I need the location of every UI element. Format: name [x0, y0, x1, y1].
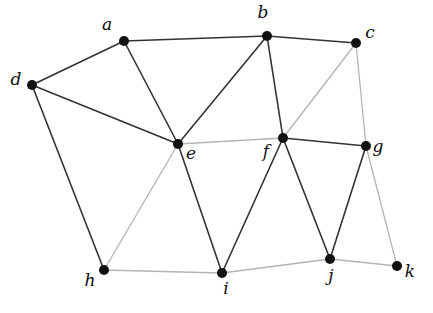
graph-edge-b-f — [267, 36, 283, 138]
graph-edge-f-g — [283, 138, 366, 146]
graph-diagram: abcdefghijk — [0, 0, 433, 313]
vertex-label-d: d — [11, 69, 22, 89]
graph-vertex-c — [351, 38, 361, 48]
graph-edge-f-j — [283, 138, 330, 259]
graph-vertex-b — [262, 31, 272, 41]
vertex-label-c: c — [365, 22, 375, 42]
graph-edge-a-b — [124, 36, 267, 41]
graph-edge-g-j — [330, 146, 366, 259]
graph-edge-d-e — [32, 85, 178, 144]
vertex-label-g: g — [373, 136, 384, 156]
graph-edge-a-d — [32, 41, 124, 85]
graph-edge-e-i — [178, 144, 222, 273]
graph-vertex-f — [278, 133, 288, 143]
graph-edge-h-i — [104, 270, 222, 273]
vertex-label-f: f — [261, 141, 272, 161]
vertex-layer — [27, 31, 402, 278]
graph-edge-c-f — [283, 43, 356, 138]
graph-vertex-j — [325, 254, 335, 264]
vertex-label-b: b — [258, 2, 269, 22]
graph-edge-e-h — [104, 144, 178, 270]
graph-edge-a-e — [124, 41, 178, 144]
graph-edge-g-k — [366, 146, 397, 266]
vertex-label-h: h — [85, 270, 96, 290]
edge-layer — [32, 36, 397, 273]
graph-vertex-g — [361, 141, 371, 151]
vertex-label-i: i — [223, 278, 228, 298]
graph-vertex-h — [99, 265, 109, 275]
graph-edge-d-h — [32, 85, 104, 270]
graph-vertex-i — [217, 268, 227, 278]
graph-vertex-a — [119, 36, 129, 46]
vertex-label-e: e — [186, 143, 196, 163]
vertex-label-a: a — [102, 14, 112, 34]
graph-edge-j-k — [330, 259, 397, 266]
graph-edge-c-g — [356, 43, 366, 146]
graph-edge-b-c — [267, 36, 356, 43]
graph-edge-f-i — [222, 138, 283, 273]
graph-vertex-k — [392, 261, 402, 271]
graph-edge-i-j — [222, 259, 330, 273]
vertex-label-k: k — [405, 261, 415, 281]
graph-vertex-e — [173, 139, 183, 149]
graph-canvas: abcdefghijk — [0, 0, 433, 313]
graph-edge-b-e — [178, 36, 267, 144]
vertex-label-j: j — [324, 265, 334, 285]
graph-vertex-d — [27, 80, 37, 90]
